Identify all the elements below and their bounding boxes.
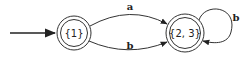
automaton-diagram: {1} {2, 3} a b b <box>0 0 251 58</box>
transition-a <box>90 14 167 26</box>
self-loop-b-label: b <box>233 12 240 23</box>
state-1-label: {1} <box>64 28 83 39</box>
state-1: {1} <box>57 16 91 50</box>
transition-b-label: b <box>127 40 134 51</box>
transition-a-label: a <box>127 1 134 12</box>
state-2: {2, 3} <box>166 14 204 52</box>
state-2-label: {2, 3} <box>169 28 201 39</box>
